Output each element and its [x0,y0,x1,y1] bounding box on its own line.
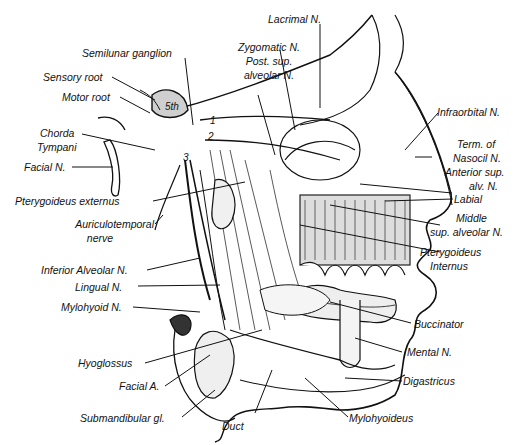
label-lacrimal-nerve: Lacrimal N. [268,13,321,25]
label-sup-alveolar-nerve: sup. alveolar N. [430,226,503,238]
label-post-sup-alveolar-2: alveolar N. [214,69,324,81]
label-term-of: Term. of [457,138,495,150]
label-mylohyoideus: Mylohyoideus [349,412,413,424]
label-middle: Middle [456,212,487,224]
division-3-marker: 3 [183,152,189,163]
label-auriculotemporal: Auriculotemporal [20,218,154,230]
label-pterygoideus-externus: Pterygoideus externus [15,195,119,207]
label-auriculotemporal-nerve: nerve [60,232,140,244]
label-tympani: Tympani [37,141,76,153]
label-alv-n: alv. N. [469,180,498,192]
ganglion-5th-marker: 5th [165,101,179,112]
label-hyoglossus: Hyoglossus [78,357,132,369]
label-digastricus: Digastricus [403,375,455,387]
label-labial: Labial [454,193,482,205]
label-infraorbital-nerve: Infraorbital N. [437,106,500,118]
label-facial-nerve: Facial N. [24,161,65,173]
label-buccinator: Buccinator [414,318,464,330]
anatomy-diagram: Lacrimal N. Semilunar ganglion Zygomatic… [0,0,529,445]
label-mental-nerve: Mental N. [407,346,452,358]
division-1-marker: 1 [210,115,216,126]
label-lingual-nerve: Lingual N. [75,281,122,293]
label-motor-root: Motor root [62,91,110,103]
label-chorda: Chorda [40,127,74,139]
label-duct: Duct [222,420,244,432]
label-internus: Internus [430,260,468,272]
label-submandibular-gland: Submandibular gl. [80,412,165,424]
label-nasocil-nerve: Nasocil N. [453,152,501,164]
label-mylohyoid-nerve: Mylohyoid N. [61,301,122,313]
label-zygomatic-nerve: Zygomatic N. [214,41,324,53]
label-sensory-root: Sensory root [43,71,103,83]
label-facial-artery: Facial A. [119,380,159,392]
label-semilunar-ganglion: Semilunar ganglion [82,47,172,59]
label-post-sup-alveolar-1: Post. sup. [214,55,324,67]
label-pterygoideus: Pterygoideus [420,246,481,258]
label-anterior-sup: Anterior sup. [445,166,505,178]
division-2-marker: 2 [208,131,214,142]
label-inferior-alveolar-nerve: Inferior Alveolar N. [41,264,128,276]
